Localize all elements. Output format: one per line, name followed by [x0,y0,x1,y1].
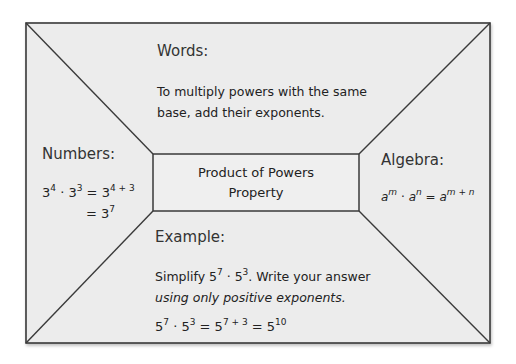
words-line2: base, add their exponents. [157,102,367,123]
center-title-line2: Property [228,183,283,203]
center-title: Product of Powers Property [153,154,359,211]
example-label: Example: [155,228,225,246]
algebra-equation: am · an = am + n [381,187,475,208]
numbers-label: Numbers: [42,145,115,163]
example-line2: using only positive exponents. [155,287,370,308]
words-label: Words: [157,42,208,60]
words-definition: To multiply powers with the same base, a… [157,81,367,123]
example-problem: Simplify 57 · 53. Write your answer usin… [155,266,370,308]
center-title-line1: Product of Powers [198,163,314,183]
numbers-equation: 34 · 33 = 34 + 3 = 37 [42,182,135,224]
numbers-equation-line2: = 37 [42,203,135,224]
example-solution: 57 · 53 = 57 + 3 = 510 [155,316,287,337]
words-line1: To multiply powers with the same [157,81,367,102]
numbers-equation-line1: 34 · 33 = 34 + 3 [42,182,135,203]
algebra-label: Algebra: [381,151,444,169]
four-square-diagram: Product of Powers Property Words: To mul… [0,0,516,364]
example-line1: Simplify 57 · 53. Write your answer [155,266,370,287]
